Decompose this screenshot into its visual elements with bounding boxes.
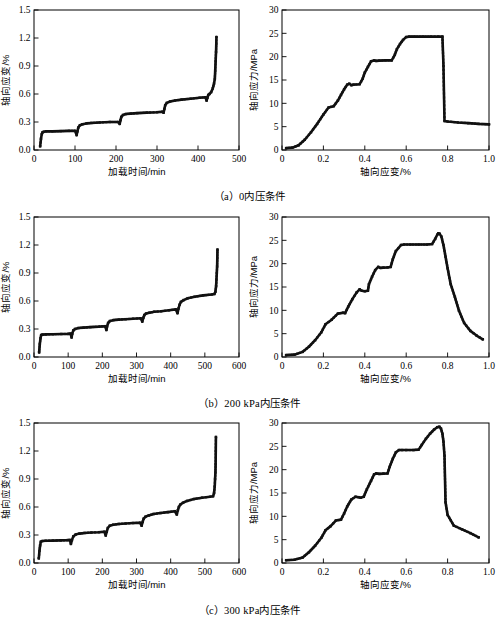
y-tick-label: 20	[269, 465, 279, 475]
plot-frame	[34, 217, 239, 357]
y-tick-label: 5	[274, 122, 279, 132]
caption-c: （c）300 kPa内压条件	[0, 602, 499, 617]
strain-time-chart-a: 01002003004005000.00.30.60.91.21.5加载时间/m…	[0, 0, 249, 186]
x-tick-label: 0	[280, 154, 285, 164]
y-tick-label: 0.0	[19, 145, 31, 155]
x-axis-label: 加载时间/min	[108, 373, 166, 384]
x-tick-label: 200	[95, 361, 110, 371]
y-tick-label: 0.6	[19, 89, 31, 99]
strain-time-chart-c: 01002003004005006000.00.30.60.91.21.5加载时…	[0, 413, 249, 599]
x-axis-label: 轴向应变/%	[360, 373, 412, 384]
y-tick-label: 20	[269, 52, 279, 62]
y-tick-label: 0.3	[19, 324, 31, 334]
series-guide-line	[39, 250, 217, 353]
plot-frame	[282, 217, 489, 357]
y-tick-label: 10	[269, 99, 279, 109]
y-tick-label: 0	[274, 558, 279, 568]
x-tick-label: 300	[150, 154, 165, 164]
stress-strain-chart-c: 00.20.40.60.81.0051015202530轴向应变/%轴向应力/M…	[249, 413, 499, 599]
y-tick-label: 30	[269, 5, 279, 15]
y-tick-label: 1.5	[19, 212, 31, 222]
x-tick-label: 400	[164, 567, 179, 577]
series-line	[286, 37, 489, 149]
series-guide-line	[286, 427, 479, 560]
x-tick-label: 1.0	[483, 361, 495, 371]
x-tick-label: 0.8	[442, 154, 454, 164]
x-tick-label: 0.6	[400, 154, 412, 164]
x-tick-label: 0.8	[442, 361, 454, 371]
x-tick-label: 200	[95, 567, 110, 577]
caption-a: （a）0内压条件	[0, 188, 499, 203]
x-tick-label: 0.8	[442, 567, 454, 577]
y-tick-label: 1.2	[19, 240, 31, 250]
x-tick-label: 500	[232, 154, 247, 164]
series-markers	[285, 232, 484, 356]
chart-panel-a-right: 00.20.40.60.81.0051015202530轴向应变/%轴向应力/M…	[249, 0, 498, 186]
x-tick-label: 500	[198, 567, 213, 577]
chart-panel-a-left: 01002003004005000.00.30.60.91.21.5加载时间/m…	[0, 0, 249, 186]
y-tick-label: 0.9	[19, 268, 31, 278]
y-tick-label: 1.2	[19, 446, 31, 456]
y-axis-label: 轴向应力/MPa	[249, 255, 259, 318]
x-axis-label: 轴向应变/%	[360, 166, 412, 177]
x-tick-label: 400	[164, 361, 179, 371]
x-axis-label: 轴向应变/%	[360, 579, 412, 590]
x-tick-label: 600	[232, 567, 247, 577]
plot-frame	[34, 10, 239, 150]
caption-b: （b）200 kPa内压条件	[0, 395, 499, 410]
x-tick-label: 1.0	[483, 567, 495, 577]
figure-row-b: 01002003004005006000.00.30.60.91.21.5加载时…	[0, 207, 499, 413]
y-tick-label: 25	[269, 442, 279, 452]
x-tick-label: 100	[61, 567, 76, 577]
x-tick-label: 100	[68, 154, 83, 164]
x-tick-label: 0.4	[359, 154, 371, 164]
series-markers	[285, 425, 480, 561]
x-tick-label: 0.4	[359, 567, 371, 577]
series-line	[39, 437, 216, 558]
plot-frame	[282, 423, 489, 563]
plot-frame	[34, 423, 239, 563]
x-tick-label: 0.6	[400, 567, 412, 577]
y-tick-label: 0.6	[19, 296, 31, 306]
series-markers	[38, 436, 218, 560]
y-tick-label: 25	[269, 29, 279, 39]
x-tick-label: 0.2	[317, 567, 329, 577]
chart-panel-b-right: 00.20.40.60.81.0051015202530轴向应变/%轴向应力/M…	[249, 207, 498, 393]
chart-panel-c-left: 01002003004005006000.00.30.60.91.21.5加载时…	[0, 413, 249, 599]
x-tick-label: 1.0	[483, 154, 495, 164]
y-axis-label: 轴向应力/MPa	[249, 48, 259, 111]
series-line	[286, 427, 479, 560]
x-tick-label: 0	[32, 154, 37, 164]
series-markers	[39, 36, 218, 148]
y-tick-label: 0.3	[19, 117, 31, 127]
y-tick-label: 0.9	[19, 474, 31, 484]
figure-row-a: 01002003004005000.00.30.60.91.21.5加载时间/m…	[0, 0, 499, 206]
x-tick-label: 0.2	[317, 361, 329, 371]
x-tick-label: 300	[129, 567, 144, 577]
y-axis-label: 轴向应力/MPa	[249, 461, 259, 524]
x-tick-label: 0.6	[400, 361, 412, 371]
y-tick-label: 15	[269, 488, 279, 498]
series-markers	[38, 248, 219, 353]
y-tick-label: 10	[269, 512, 279, 522]
y-tick-label: 0.0	[19, 558, 31, 568]
stress-strain-chart-b: 00.20.40.60.81.0051015202530轴向应变/%轴向应力/M…	[249, 207, 499, 393]
x-axis-label: 加载时间/min	[108, 579, 166, 590]
x-tick-label: 0.4	[359, 361, 371, 371]
y-tick-label: 1.5	[19, 5, 31, 15]
series-markers	[285, 35, 490, 149]
x-tick-label: 600	[232, 361, 247, 371]
chart-panel-b-left: 01002003004005006000.00.30.60.91.21.5加载时…	[0, 207, 249, 393]
y-tick-label: 30	[269, 212, 279, 222]
y-tick-label: 20	[269, 259, 279, 269]
x-tick-label: 100	[61, 361, 76, 371]
y-tick-label: 0.3	[19, 530, 31, 540]
y-tick-label: 5	[274, 329, 279, 339]
y-tick-label: 10	[269, 306, 279, 316]
y-tick-label: 1.2	[19, 33, 31, 43]
y-tick-label: 0.6	[19, 502, 31, 512]
y-tick-label: 30	[269, 418, 279, 428]
x-tick-label: 300	[129, 361, 144, 371]
y-tick-label: 15	[269, 75, 279, 85]
x-tick-label: 0	[280, 567, 285, 577]
